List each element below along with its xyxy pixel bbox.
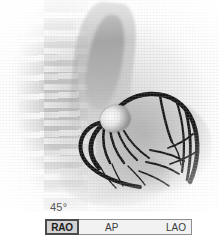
projection-controls: 45° AP LAO RAO — [0, 212, 219, 244]
angle-value-label: 45° — [50, 201, 67, 213]
slider-label-lao[interactable]: LAO — [166, 221, 186, 234]
slider-label-ap[interactable]: AP — [105, 221, 118, 234]
slider-handle-rao[interactable]: RAO — [45, 219, 79, 235]
fluoroscopy-image — [0, 0, 219, 212]
detector-banding-vertical — [0, 0, 219, 212]
projection-angle-slider[interactable]: AP LAO RAO — [45, 219, 192, 235]
angiography-viewer: 45° AP LAO RAO — [0, 0, 219, 244]
